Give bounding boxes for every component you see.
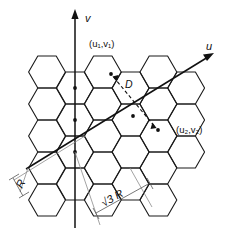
u-axis-label: u (206, 40, 212, 52)
center-dot-cell2 (156, 128, 160, 132)
center-dot-cell1 (109, 72, 113, 76)
cell2-label: (u₂,v₂) (176, 124, 202, 135)
center-dot (131, 114, 135, 118)
center-dot (73, 86, 77, 90)
distance-label: D (125, 78, 133, 90)
center-dot (73, 118, 77, 122)
cell1-label: (u₁,v₁) (89, 38, 114, 49)
hexagon-lattice-figure: v u D (u₁,v₁) (u₂,v₂) R (0, 0, 231, 236)
